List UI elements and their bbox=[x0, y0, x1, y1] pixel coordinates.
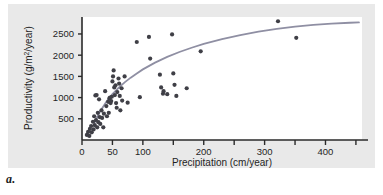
data-point bbox=[199, 49, 203, 53]
data-point bbox=[185, 86, 189, 90]
data-point bbox=[104, 104, 108, 108]
y-axis-title: Productivity (g/m2/year) bbox=[23, 26, 34, 130]
data-point bbox=[118, 94, 122, 98]
data-point bbox=[116, 76, 120, 80]
x-tick-label: 300 bbox=[257, 146, 273, 157]
data-point bbox=[147, 35, 151, 39]
data-point bbox=[100, 116, 104, 120]
figure-panel: 5001000150020002500 050100200300400 Prec… bbox=[0, 0, 383, 195]
data-point bbox=[172, 83, 176, 87]
data-point bbox=[92, 114, 96, 118]
data-point bbox=[111, 74, 115, 78]
y-axis-title-main: Productivity (g/m bbox=[23, 55, 34, 129]
data-point bbox=[174, 94, 178, 98]
data-point bbox=[107, 111, 111, 115]
data-point bbox=[161, 89, 165, 93]
data-point bbox=[95, 93, 99, 97]
data-point bbox=[103, 89, 107, 93]
plot-area-background bbox=[82, 17, 362, 140]
data-point bbox=[158, 73, 162, 77]
y-tick-label: 2500 bbox=[53, 28, 74, 39]
data-point bbox=[113, 83, 117, 87]
y-tick-label: 1000 bbox=[53, 92, 74, 103]
data-point bbox=[110, 79, 114, 83]
data-point bbox=[276, 19, 280, 23]
data-point bbox=[118, 108, 122, 112]
data-point bbox=[112, 68, 116, 72]
data-point bbox=[95, 125, 99, 129]
data-point bbox=[117, 81, 121, 85]
data-point bbox=[123, 74, 127, 78]
data-point bbox=[171, 71, 175, 75]
data-point bbox=[89, 124, 93, 128]
y-tick-label: 2000 bbox=[53, 50, 74, 61]
x-axis-title: Precipitation (cm/year) bbox=[172, 157, 272, 168]
x-tick-label: 200 bbox=[196, 146, 212, 157]
data-point bbox=[115, 106, 119, 110]
data-point bbox=[98, 122, 102, 126]
scatter-chart: 5001000150020002500 050100200300400 Prec… bbox=[0, 0, 383, 175]
data-point bbox=[99, 108, 103, 112]
data-point bbox=[294, 36, 298, 40]
x-tick-label: 0 bbox=[79, 146, 84, 157]
data-point bbox=[138, 95, 142, 99]
data-point bbox=[87, 134, 91, 138]
data-point bbox=[119, 86, 123, 90]
data-point bbox=[135, 40, 139, 44]
data-point bbox=[159, 85, 163, 89]
y-axis-tick-labels: 5001000150020002500 bbox=[53, 28, 74, 124]
x-axis-tick-labels: 050100200300400 bbox=[79, 146, 333, 157]
data-point bbox=[101, 125, 105, 129]
data-point bbox=[126, 101, 130, 105]
data-point bbox=[91, 127, 95, 131]
data-point bbox=[97, 97, 101, 101]
data-point bbox=[96, 111, 100, 115]
data-point bbox=[170, 32, 174, 36]
x-tick-label: 100 bbox=[135, 146, 151, 157]
x-tick-label: 400 bbox=[318, 146, 334, 157]
x-tick-label: 50 bbox=[107, 146, 118, 157]
data-point bbox=[109, 99, 113, 103]
data-point bbox=[165, 92, 169, 96]
data-point bbox=[120, 98, 124, 102]
data-point bbox=[115, 90, 119, 94]
y-axis-title-tail: /year) bbox=[23, 26, 34, 52]
panel-label: a. bbox=[6, 172, 15, 187]
data-point bbox=[148, 56, 152, 60]
y-tick-label: 1500 bbox=[53, 71, 74, 82]
y-tick-label: 500 bbox=[58, 113, 74, 124]
data-point bbox=[114, 101, 118, 105]
